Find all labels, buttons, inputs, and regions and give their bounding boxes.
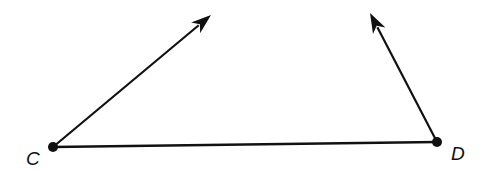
diagram-canvas: C D bbox=[0, 0, 489, 170]
point-c bbox=[48, 142, 58, 152]
segment-cd bbox=[53, 142, 437, 147]
arrowhead-icon bbox=[370, 13, 385, 34]
label-c: C bbox=[26, 148, 40, 169]
geometry-figure: C D bbox=[0, 0, 489, 170]
ray-from-c bbox=[53, 25, 199, 147]
ray-from-d bbox=[377, 27, 437, 142]
label-d: D bbox=[451, 143, 465, 164]
point-d bbox=[432, 137, 442, 147]
